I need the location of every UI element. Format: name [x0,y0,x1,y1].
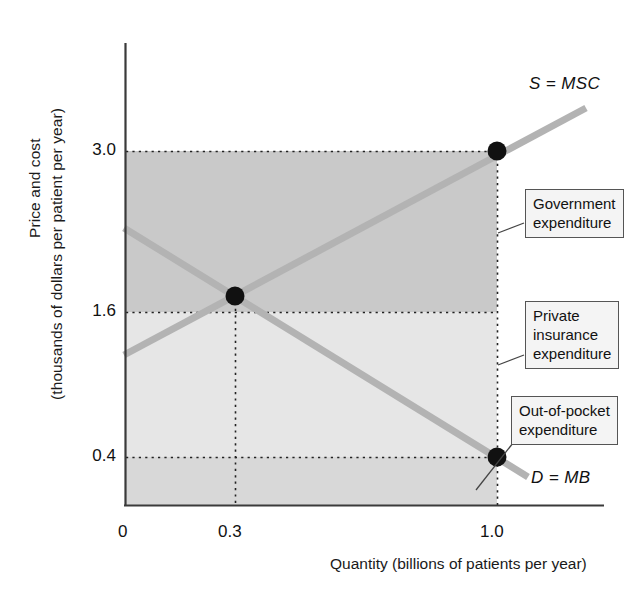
callout-government-line-2: expenditure [533,213,616,232]
callout-private-line-1: Private [533,306,611,325]
x-axis-title: Quantity (billions of patients per year) [330,555,587,573]
demand-curve-label: D = MB [531,468,591,488]
y-tick-label-1-6: 1.6 [78,301,116,321]
callout-private-line-3: expenditure [533,344,611,363]
callout-government-expenditure: Government expenditure [525,189,624,238]
x-tick-label-0-3: 0.3 [218,522,242,542]
leader-line-private [498,355,524,365]
y-axis-title-primary: Price and cost [26,138,44,238]
callout-private-line-2: insurance [533,325,611,344]
y-tick-label-0-4: 0.4 [78,446,116,466]
band-private-insurance-expenditure [126,312,497,457]
band-out-of-pocket-expenditure [126,457,497,505]
marker-efficient-equilibrium [226,287,245,306]
x-tick-label-0: 0 [118,522,127,542]
callout-government-line-1: Government [533,194,616,213]
leader-line-government [498,223,524,233]
y-axis-title-units: (thousands of dollars per patient per ye… [48,108,66,400]
callout-private-insurance-expenditure: Private insurance expenditure [525,301,619,369]
callout-out-of-pocket-line-1: Out-of-pocket [519,401,610,420]
callout-out-of-pocket-expenditure: Out-of-pocket expenditure [511,396,618,445]
band-government-expenditure [126,151,497,312]
y-tick-label-3-0: 3.0 [78,140,116,160]
marker-supply-at-q1 [488,142,507,161]
health-care-expenditure-chart: Price and cost (thousands of dollars per… [0,0,642,591]
x-tick-label-1-0: 1.0 [480,522,504,542]
callout-out-of-pocket-line-2: expenditure [519,420,610,439]
supply-curve-label: S = MSC [529,74,600,94]
